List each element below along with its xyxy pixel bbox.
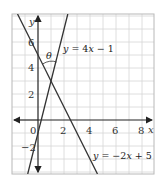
theta-arc <box>43 61 57 64</box>
line1-equation-label: y = 4x − 1 <box>62 43 114 54</box>
x-tick-6: 6 <box>112 125 118 136</box>
y-tick-4: 4 <box>28 62 34 73</box>
x-axis-label: x <box>148 124 154 135</box>
line-chart: θ 0 2 4 6 8 6 4 2 −2 x y y = 4x − 1 y = … <box>0 0 165 183</box>
y-axis-label: y <box>28 16 35 27</box>
y-tick-2: 2 <box>28 89 34 100</box>
line2-equation-label: y = −2x + 5 <box>92 150 152 161</box>
x-tick-2: 2 <box>60 125 66 136</box>
y-tick-6: 6 <box>28 37 34 48</box>
x-tick-4: 4 <box>86 125 92 136</box>
x-tick-0: 0 <box>30 125 36 136</box>
x-tick-8: 8 <box>138 125 144 136</box>
theta-label: θ <box>46 50 52 61</box>
y-tick-neg2: −2 <box>21 142 36 153</box>
